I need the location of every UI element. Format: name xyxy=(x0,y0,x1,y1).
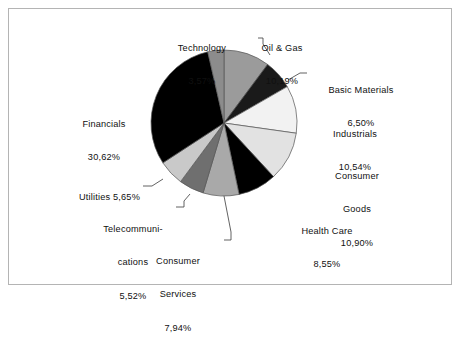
slice-label-telecommunications-value: 5,52% xyxy=(92,291,174,302)
slice-label-financials-value: 30,62% xyxy=(62,152,146,163)
slice-label-financials: Financials 30,62% xyxy=(62,96,146,175)
slice-label-technology-name: Technology xyxy=(160,43,244,54)
slice-label-technology-value: 3,57% xyxy=(160,76,244,87)
slice-label-consumer-services-value: 7,94% xyxy=(137,323,219,334)
slice-label-oil-gas-name: Oil & Gas xyxy=(246,43,318,54)
slice-label-basic-materials-name: Basic Materials xyxy=(311,85,411,96)
slice-label-industrials-name: Industrials xyxy=(311,129,399,140)
leader-line-telecommunications xyxy=(176,194,190,207)
slice-label-technology: Technology 3,57% xyxy=(160,20,244,99)
slice-label-telecommunications-name2: cations xyxy=(92,257,174,268)
leader-line-consumer-services xyxy=(224,196,231,240)
leader-line-utilities xyxy=(143,179,163,186)
slice-label-consumer-goods-name: Consumer xyxy=(311,171,403,182)
slice-label-telecommunications-name: Telecommuni- xyxy=(92,224,174,235)
slice-label-health-care-name: Health Care xyxy=(285,226,369,237)
slice-label-utilities-name: Utilities xyxy=(79,192,110,202)
slice-label-oil-gas-value: 10,19% xyxy=(246,76,318,87)
slice-label-utilities-value: 5,65% xyxy=(113,192,140,202)
slice-label-financials-name: Financials xyxy=(62,119,146,130)
slice-label-health-care: Health Care 8,55% xyxy=(285,203,369,282)
slice-label-oil-gas: Oil & Gas 10,19% xyxy=(246,20,318,99)
slice-label-utilities: Utilities 5,65% xyxy=(48,181,140,204)
slice-label-health-care-value: 8,55% xyxy=(285,259,369,270)
slice-label-telecommunications: Telecommuni- cations 5,52% xyxy=(92,201,174,314)
